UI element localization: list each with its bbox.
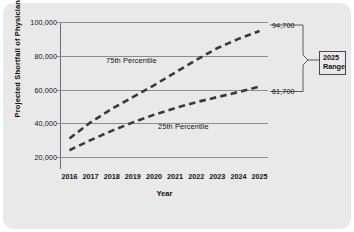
x-tick-label: 2018 [104,172,120,181]
x-tick-label: 2020 [146,172,162,181]
x-tick-label: 2024 [230,172,246,181]
x-tick-label: 2022 [188,172,204,181]
endpoint-label-25th: 61,700 [272,87,295,96]
series-label-25th-percentile: 25th Percentile [158,122,209,131]
x-tick-label: 2016 [61,172,77,181]
endpoint-label-75th: 94,700 [272,21,295,30]
series-label-75th-percentile: 75th Percentile [106,56,157,65]
chart-figure: 100,000 80,000 60,000 40,000 20,000 Proj… [0,0,354,232]
x-tick-label: 2021 [167,172,183,181]
x-tick-label: 2023 [209,172,225,181]
x-axis-tick-labels: 2016201720182019202020212022202320242025 [61,172,268,184]
range-callout-line2: Range [323,63,343,72]
range-bracket [290,25,308,92]
x-axis-title: Year [61,189,268,198]
x-tick-label: 2017 [83,172,99,181]
x-tick-label: 2019 [125,172,141,181]
range-callout-box: 2025 Range [319,51,346,75]
x-tick-label: 2025 [252,172,268,181]
